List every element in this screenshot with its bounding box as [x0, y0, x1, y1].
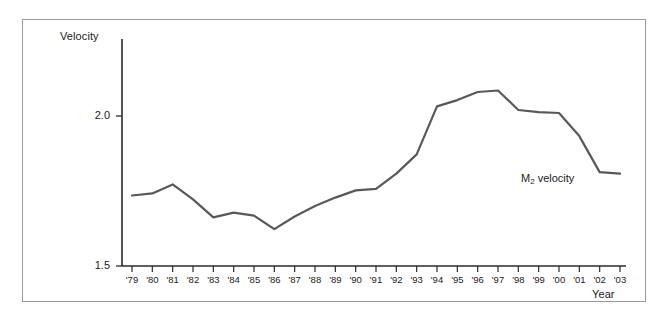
- chart-frame: [22, 19, 646, 302]
- series-annotation-prefix: M: [521, 172, 530, 184]
- series-annotation-subscript: 2: [530, 177, 534, 186]
- y-tick-label: 2.0: [80, 109, 110, 121]
- series-annotation-m2-velocity: M2 velocity: [521, 172, 574, 184]
- x-tick-label: '03: [605, 274, 635, 285]
- x-axis-title: Year: [592, 288, 615, 300]
- y-axis-title: Velocity: [60, 30, 99, 42]
- chart-figure: Velocity Year M2 velocity 2.01.5'79'80'8…: [0, 0, 668, 326]
- series-annotation-suffix: velocity: [535, 172, 575, 184]
- y-tick-label: 1.5: [80, 259, 110, 271]
